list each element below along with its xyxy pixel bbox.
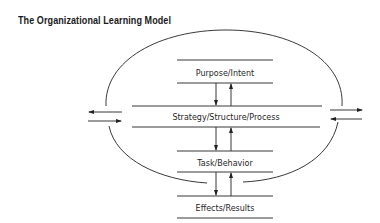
connector-purpose-strategy <box>216 83 231 106</box>
connector-strategy-task <box>216 127 231 151</box>
level-label: Purpose/Intent <box>196 69 255 78</box>
external-exchange-right <box>330 110 362 119</box>
connector-task-effects <box>216 172 231 196</box>
level-label: Strategy/Structure/Process <box>172 113 279 122</box>
ellipse-boundary-bottom-left <box>109 126 207 183</box>
level-purpose-intent: Purpose/Intent <box>177 60 273 83</box>
level-strategy-structure-process: Strategy/Structure/Process <box>132 106 322 127</box>
ellipse-boundary-top <box>106 30 342 106</box>
ellipse-boundary-bottom-right <box>243 122 338 182</box>
level-task-behavior: Task/Behavior <box>177 151 273 172</box>
level-effects-results: Effects/Results <box>177 196 273 218</box>
level-label: Effects/Results <box>196 204 255 213</box>
level-label: Task/Behavior <box>196 159 253 168</box>
organizational-learning-diagram: Purpose/Intent Strategy/Structure/Proces… <box>0 0 380 223</box>
external-exchange-left <box>88 112 122 121</box>
